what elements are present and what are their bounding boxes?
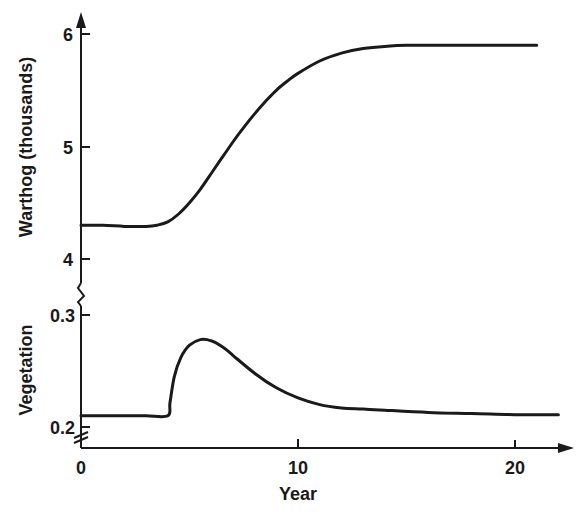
y-tick-label-6: 6 (63, 25, 73, 45)
y-tick-label-4: 4 (63, 250, 73, 270)
vegetation-series-line (81, 339, 558, 416)
y-axis-arrow-icon (76, 12, 86, 28)
x-tick-label-20: 20 (505, 458, 525, 478)
y-axis-title-vegetation: Vegetation (16, 324, 36, 415)
x-tick-label-10: 10 (288, 458, 308, 478)
y-tick-label-0-3: 0.3 (50, 306, 75, 326)
y-tick-label-0-2: 0.2 (50, 418, 75, 438)
warthog-series-line (81, 45, 537, 226)
y-axis-break-icon (78, 283, 84, 306)
x-axis-arrow-icon (558, 443, 574, 453)
y-axis-title-warthog: Warthog (thousands) (16, 57, 36, 237)
y-tick-label-5: 5 (63, 138, 73, 158)
chart-canvas: 6 5 4 0.3 0.2 0 10 20 Year Warthog (thou… (0, 0, 580, 512)
x-axis-title: Year (279, 484, 317, 504)
x-tick-label-0: 0 (76, 458, 86, 478)
